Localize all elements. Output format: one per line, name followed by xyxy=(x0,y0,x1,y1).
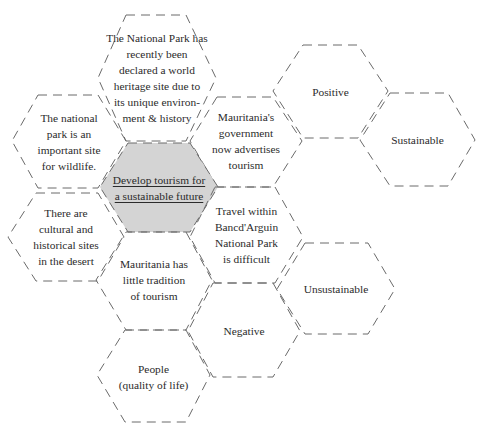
hex-text-people: People (quality of life) xyxy=(97,355,210,399)
hex-text-negative: Negative xyxy=(188,315,300,347)
hex-text-positive: Positive xyxy=(273,80,388,104)
hex-text-unsustainable: Unsustainable xyxy=(277,277,395,301)
hex-text-little-tradition: Mauritania has little tradition of touri… xyxy=(96,240,212,320)
hex-text-sustainable: Sustainable xyxy=(360,128,475,152)
